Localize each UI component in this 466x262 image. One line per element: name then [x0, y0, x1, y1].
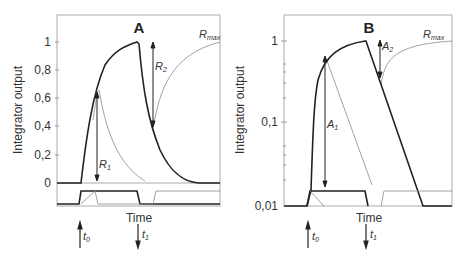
r2-label: R2	[155, 60, 167, 73]
ytick: 0,8	[34, 63, 51, 77]
stimulus-short-b	[310, 191, 452, 206]
r1-label: R1	[99, 158, 111, 171]
panel-a: A Integrator output Time 1 0,8 0,6 0,4 0…	[11, 15, 221, 248]
t0-arrow-a	[78, 222, 82, 248]
a2-label: A2	[381, 40, 393, 53]
long-pulse-curve	[57, 42, 220, 183]
t1-arrow-a	[136, 224, 140, 248]
ytick: 0,1	[261, 115, 278, 129]
stimulus-short	[81, 191, 220, 204]
panel-b-ylabel: Integrator output	[233, 65, 247, 154]
r2-arrow	[151, 42, 155, 127]
panel-b-xlabel: Time	[356, 211, 383, 225]
t0-label-b: t0	[312, 230, 319, 243]
panel-a-xlabel: Time	[126, 211, 153, 225]
a1-label: A1	[326, 118, 338, 131]
stimulus-long-b	[307, 191, 368, 206]
panel-a-yticks: 1 0,8 0,6 0,4 0,2 0	[34, 35, 59, 190]
panel-b-title: B	[364, 19, 375, 36]
recovery-curve	[153, 42, 220, 128]
ytick: 0,2	[34, 148, 51, 162]
t0-arrow-b	[306, 222, 310, 248]
t1-label-a: t1	[142, 228, 149, 241]
panel-b: B Integrator output Time 1 0,1 0,01	[233, 15, 452, 248]
t1-label-b: t1	[370, 228, 377, 241]
panel-b-yticks: 1 0,1 0,01	[255, 34, 287, 213]
panel-a-ylabel: Integrator output	[11, 65, 25, 154]
rmax-label-b: Rmax	[423, 28, 445, 41]
ytick: 1	[44, 35, 51, 49]
ytick: 0,4	[34, 119, 51, 133]
stimulus-long	[57, 191, 220, 204]
ytick: 0,6	[34, 91, 51, 105]
figure: A Integrator output Time 1 0,8 0,6 0,4 0…	[0, 0, 466, 262]
ytick: 0,01	[255, 199, 279, 213]
t1-arrow-b	[364, 224, 368, 248]
panel-a-title: A	[134, 19, 145, 36]
ytick: 1	[271, 34, 278, 48]
ytick: 0	[44, 176, 51, 190]
long-pulse-curve-b	[284, 41, 452, 206]
t0-label-a: t0	[83, 230, 90, 243]
rmax-label-a: Rmax	[199, 28, 221, 41]
